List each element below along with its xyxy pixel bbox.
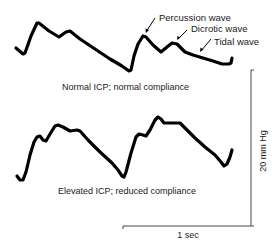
elevated-icp-caption: Elevated ICP; reduced compliance — [58, 186, 196, 196]
scale-bar-vertical — [251, 70, 254, 226]
tidal-wave-label: Tidal wave — [214, 36, 259, 47]
time-scale-label: 1 sec — [177, 230, 199, 240]
pressure-scale-label: 20 mm Hg — [258, 130, 268, 172]
normal-icp-caption: Normal ICP; normal compliance — [62, 82, 189, 92]
percussion-wave-label: Percussion wave — [159, 12, 231, 23]
icp-diagram: Percussion wave Dicrotic wave Tidal wave… — [0, 0, 275, 245]
scale-bar-horizontal — [123, 226, 254, 229]
elevated-icp-waveform — [17, 117, 232, 180]
dicrotic-wave-label: Dicrotic wave — [191, 23, 248, 34]
